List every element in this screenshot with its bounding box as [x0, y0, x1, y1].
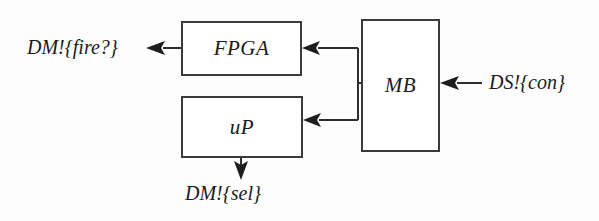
arrowhead-con-input	[440, 76, 459, 90]
block-up-label: uP	[230, 115, 254, 140]
block-mb-label: MB	[385, 73, 416, 98]
block-fpga-label: FPGA	[214, 36, 270, 61]
arrowhead-fire-output	[146, 41, 165, 55]
arrowhead-sel-output	[234, 161, 248, 180]
block-mb[interactable]: MB	[361, 19, 440, 152]
block-up[interactable]: uP	[181, 96, 303, 158]
arrowhead-into-fpga	[302, 41, 320, 55]
diagram-canvas: FPGA uP MB DM!{fire?} DS!{con} DM!{sel}	[0, 0, 599, 221]
arrowhead-into-up	[303, 113, 321, 127]
signal-label-fire: DM!{fire?}	[27, 36, 118, 59]
block-fpga[interactable]: FPGA	[181, 21, 302, 76]
signal-label-con: DS!{con}	[489, 71, 565, 94]
signal-label-sel: DM!{sel}	[185, 182, 261, 205]
